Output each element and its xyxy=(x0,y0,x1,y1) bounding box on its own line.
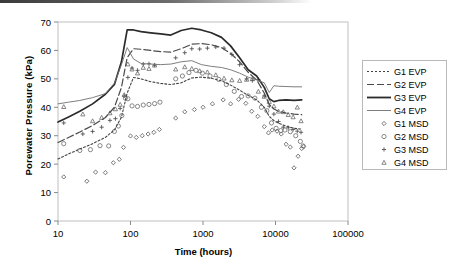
x-tick-label: 1000 xyxy=(192,228,213,239)
legend-item: G1 MSD xyxy=(366,117,444,130)
figure-root: 01020304050607010100100010000100000 Pore… xyxy=(0,0,453,270)
legend-item-label: G1 MSD xyxy=(392,119,429,129)
solid-line-thin-icon xyxy=(366,104,392,117)
triangle-marker-icon xyxy=(366,156,392,169)
circle-marker-icon xyxy=(366,130,392,143)
y-tick-label: 40 xyxy=(40,102,51,113)
legend-item-label: G3 MSD xyxy=(392,145,429,155)
plus-marker-icon xyxy=(366,143,392,156)
diamond-marker-icon xyxy=(366,117,392,130)
legend-item-label: G1 EVP xyxy=(392,67,427,77)
y-tick-label: 50 xyxy=(40,73,51,84)
dotted-line-icon xyxy=(366,65,392,78)
y-axis-title: Porewater Pressure (kPa) xyxy=(23,26,34,206)
legend-item: G3 MSD xyxy=(366,143,444,156)
legend-item: G3 EVP xyxy=(366,91,444,104)
legend-item: G1 EVP xyxy=(366,65,444,78)
plot-frame xyxy=(58,22,348,221)
y-tick-label: 70 xyxy=(40,17,51,28)
legend-item: G4 MSD xyxy=(366,156,444,169)
legend-item: G4 EVP xyxy=(366,104,444,117)
y-tick-label: 0 xyxy=(46,216,51,227)
y-tick-label: 20 xyxy=(40,159,51,170)
legend-item-label: G2 MSD xyxy=(392,132,429,142)
x-tick-label: 100 xyxy=(123,228,139,239)
legend-item-label: G2 EVP xyxy=(392,80,427,90)
legend-item: G2 MSD xyxy=(366,130,444,143)
y-tick-label: 60 xyxy=(40,45,51,56)
legend-item-label: G3 EVP xyxy=(392,93,427,103)
y-tick-label: 10 xyxy=(40,187,51,198)
dashed-line-icon xyxy=(366,78,392,91)
x-tick-label: 100000 xyxy=(332,228,364,239)
legend-item-label: G4 EVP xyxy=(392,106,427,116)
x-axis-title: Time (hours) xyxy=(58,246,349,257)
x-tick-label: 10000 xyxy=(262,228,288,239)
x-tick-label: 10 xyxy=(53,228,64,239)
legend-item-label: G4 MSD xyxy=(392,158,429,168)
chart-legend: G1 EVPG2 EVPG3 EVPG4 EVPG1 MSDG2 MSDG3 M… xyxy=(362,60,447,170)
solid-line-thick-icon xyxy=(366,91,392,104)
legend-item: G2 EVP xyxy=(366,78,444,91)
y-tick-label: 30 xyxy=(40,130,51,141)
